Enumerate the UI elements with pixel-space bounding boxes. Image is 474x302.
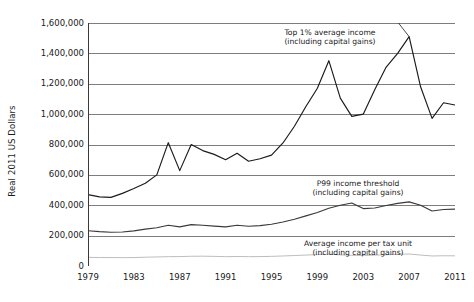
x-tick-label: 1995 [252, 272, 292, 282]
income-inequality-line-chart: Real 2011 US Dollars 0200,000400,000600,… [0, 0, 474, 302]
plot-svg [88, 23, 455, 266]
annotation-average-income-line1: Average income per tax unit [283, 239, 433, 248]
annotation-top-1-percent: Top 1% average income (including capital… [255, 28, 405, 46]
y-tick-label: 600,000 [22, 170, 84, 179]
x-tick-label: 1999 [297, 272, 337, 282]
x-tick-label: 1987 [160, 272, 200, 282]
annotation-top-1-percent-line1: Top 1% average income [255, 28, 405, 37]
x-tick-label: 1983 [114, 272, 154, 282]
x-tick-label: 2011 [435, 272, 474, 282]
annotation-p99-threshold-line1: P99 income threshold [283, 179, 433, 188]
series-line-0 [88, 37, 455, 198]
x-axis-tick-labels: 197919831987199119951999200320072011 [0, 272, 474, 288]
y-tick-label: 400,000 [22, 201, 84, 210]
annotation-average-income-line2: (including capital gains) [283, 248, 433, 257]
y-tick-label: 200,000 [22, 231, 84, 240]
y-tick-label: 1,200,000 [22, 79, 84, 88]
y-axis-tick-labels: 0200,000400,000600,000800,0001,000,0001,… [18, 0, 84, 302]
annotation-average-income: Average income per tax unit (including c… [283, 239, 433, 257]
y-tick-label: 1,400,000 [22, 49, 84, 58]
x-tick-label: 2007 [389, 272, 429, 282]
x-tick-label: 1979 [68, 272, 108, 282]
y-tick-label: 800,000 [22, 140, 84, 149]
x-tick-label: 2003 [343, 272, 383, 282]
series-line-1 [88, 202, 455, 232]
x-tick-label: 1991 [206, 272, 246, 282]
annotation-top-1-percent-line2: (including capital gains) [255, 37, 405, 46]
y-tick-label: 0 [22, 262, 84, 271]
annotation-p99-threshold: P99 income threshold (including capital … [283, 179, 433, 197]
y-tick-label: 1,600,000 [22, 19, 84, 28]
series-lines [88, 23, 455, 258]
y-tick-label: 1,000,000 [22, 110, 84, 119]
plot-area [88, 23, 455, 266]
annotation-p99-threshold-line2: (including capital gains) [283, 188, 433, 197]
